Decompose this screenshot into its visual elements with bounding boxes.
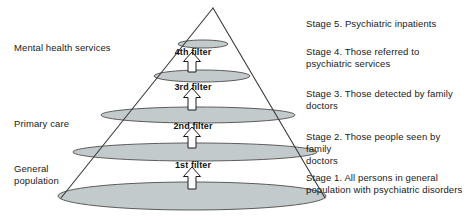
stage-label-stage-5: Stage 5. Psychiatric inpatients <box>306 18 436 30</box>
level-ellipse-stage-4 <box>154 70 250 82</box>
care-tier-primary-care: Primary care <box>14 118 69 130</box>
stage-label-stage-1: Stage 1. All persons in general populati… <box>306 172 462 196</box>
care-tier-general-population: General population <box>14 163 59 187</box>
filter-1-label: 1st filter <box>148 160 238 170</box>
stage-label-stage-4: Stage 4. Those referred to psychiatric s… <box>306 46 419 70</box>
filter-3-label: 3rd filter <box>148 82 238 92</box>
filter-2-label: 2nd filter <box>148 121 238 131</box>
stage-label-stage-2: Stage 2. Those people seen by family doc… <box>306 131 467 167</box>
filter-model-diagram: Mental health servicesPrimary careGenera… <box>0 0 467 220</box>
stage-label-stage-3: Stage 3. Those detected by family doctor… <box>306 88 453 112</box>
filter-4-label: 4th filter <box>148 47 238 57</box>
care-tier-mental-health-services: Mental health services <box>14 42 111 54</box>
